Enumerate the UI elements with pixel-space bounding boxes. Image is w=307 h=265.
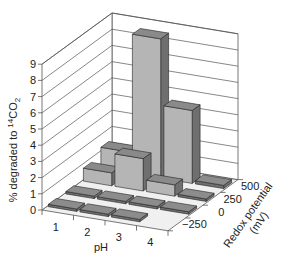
bar-chart-3d: 01234567891234pH−2500250500Redox potenti… [0, 0, 307, 265]
bar [115, 148, 151, 191]
y-tick-label: 3 [30, 155, 36, 167]
z-tick-label: −250 [182, 218, 207, 230]
z-tick-label: 250 [223, 193, 241, 205]
y-tick-label: 1 [30, 188, 36, 200]
x-tick-label: 4 [147, 236, 153, 248]
y-tick-label: 8 [30, 74, 36, 86]
y-tick-label: 7 [30, 91, 36, 103]
x-tick-label: 1 [53, 221, 59, 233]
z-tick-label: 500 [241, 180, 259, 192]
y-tick-label: 2 [30, 172, 36, 184]
y-axis-title: % degraded to 14CO2 [6, 97, 22, 202]
y-tick-label: 6 [30, 107, 36, 119]
plot-area: 01234567891234pH−2500250500Redox potenti… [0, 0, 307, 265]
y-tick-label: 5 [30, 123, 36, 135]
y-tick-label: 9 [30, 58, 36, 70]
x-axis-title: pH [94, 241, 108, 253]
y-axis-ticks: 0123456789 [30, 58, 42, 216]
x-tick-label: 3 [116, 231, 122, 243]
y-tick-label: 0 [30, 204, 36, 216]
bar [83, 162, 119, 185]
y-tick-label: 4 [30, 139, 36, 151]
x-tick-label: 2 [84, 226, 90, 238]
bar [164, 100, 200, 183]
z-tick-label: 0 [218, 206, 224, 218]
